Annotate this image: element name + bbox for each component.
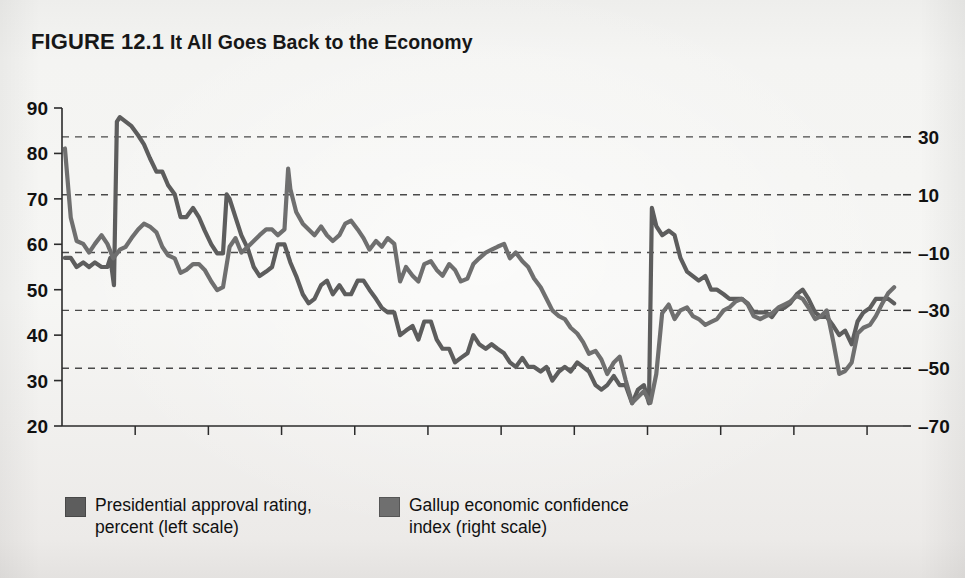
economy-line-chart: 2030405060708090 –70–50–30–101030 200120… [0,96,965,441]
svg-text:20: 20 [27,416,48,437]
legend-swatch-confidence [379,497,400,517]
right-axis-ticks [903,137,911,426]
legend-label-confidence: Gallup economic confidence index (right … [409,494,629,539]
figure-number: FIGURE 12.1 [31,29,164,54]
right-axis-labels: –70–50–30–101030 [918,127,950,437]
series-confidence [65,148,894,402]
svg-text:30: 30 [27,371,48,392]
chart-container: 2030405060708090 –70–50–30–101030 200120… [0,96,965,441]
svg-text:–10: –10 [918,243,950,264]
svg-text:–70: –70 [918,416,950,437]
legend-item-confidence[interactable]: Gallup economic confidence index (right … [379,494,629,539]
legend-label-approval: Presidential approval rating, percent (l… [95,494,312,539]
legend-label-confidence-line1: Gallup economic confidence [409,494,629,516]
svg-text:50: 50 [27,280,48,301]
figure-title: It All Goes Back to the Economy [170,31,473,53]
legend-label-approval-line1: Presidential approval rating, [95,494,312,516]
left-axis-labels: 2030405060708090 [27,98,48,437]
x-axis-ticks [135,426,867,435]
legend-swatch-approval [65,497,86,517]
svg-text:60: 60 [27,234,48,255]
chart-legend: Presidential approval rating, percent (l… [0,492,965,562]
svg-text:90: 90 [27,98,48,119]
svg-text:10: 10 [918,185,939,206]
svg-text:30: 30 [918,127,939,148]
svg-text:70: 70 [27,189,48,210]
legend-item-approval[interactable]: Presidential approval rating, percent (l… [65,494,312,539]
page-title: FIGURE 12.1 It All Goes Back to the Econ… [31,29,473,55]
series-lines [65,117,894,403]
svg-text:40: 40 [27,325,48,346]
svg-text:80: 80 [27,143,48,164]
svg-text:–50: –50 [918,358,950,379]
svg-text:–30: –30 [918,300,950,321]
legend-label-approval-line2: percent (left scale) [95,516,312,538]
gridlines [62,137,903,368]
left-axis-ticks [54,108,62,426]
legend-label-confidence-line2: index (right scale) [409,516,629,538]
